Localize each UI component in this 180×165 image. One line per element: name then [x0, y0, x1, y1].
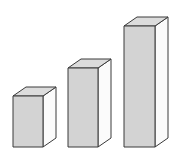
- bar-1-front-face: [13, 96, 43, 147]
- bar-chart-figure: [0, 0, 180, 165]
- bar-3: [124, 17, 168, 147]
- bar-3-front-face: [124, 26, 155, 147]
- bar-2-side-face: [98, 59, 111, 147]
- bar-2-front-face: [68, 68, 98, 147]
- bar-chart-canvas: [0, 0, 180, 165]
- bar-2: [68, 59, 111, 147]
- bar-3-side-face: [155, 17, 168, 147]
- bar-1: [13, 87, 56, 147]
- bar-1-side-face: [43, 87, 56, 147]
